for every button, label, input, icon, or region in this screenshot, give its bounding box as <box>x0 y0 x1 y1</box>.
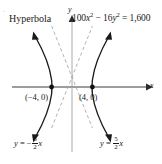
right-vertex-dot <box>90 85 95 90</box>
right-asymptote-numerator: 5 <box>113 136 119 143</box>
left-vertex-dot <box>49 85 54 90</box>
right-asymptote-fraction: 52 <box>113 136 119 151</box>
equation-operator: − <box>96 13 101 23</box>
hyperbola-right-upper-arrowhead <box>105 32 112 40</box>
right-asymptote-denominator: 2 <box>113 143 119 151</box>
right-asymptote-equals: = <box>106 139 111 148</box>
x-axis-label: x <box>150 82 154 90</box>
left-asymptote-y-var: y <box>14 139 18 148</box>
right-asymptote-label: y = 52x <box>100 136 123 151</box>
equation-constant: 1,600 <box>129 13 150 23</box>
right-asymptote-y-var: y <box>100 139 104 148</box>
y-axis-label: y <box>68 6 72 14</box>
figure-title: Hyperbola <box>9 14 51 24</box>
hyperbola-left-upper-arrowhead <box>32 32 39 40</box>
left-asymptote-x-var: x <box>38 139 42 148</box>
equation-equals: = <box>122 13 127 23</box>
left-vertex-label: (−4, 0) <box>25 93 48 102</box>
equation-coefficient-x: 100 <box>72 13 86 23</box>
left-asymptote-fraction: 52 <box>32 136 38 151</box>
right-vertex-label: (4, 0) <box>79 93 97 102</box>
equation-label: 100x2 − 16y2 = 1,600 <box>72 14 150 24</box>
left-asymptote-denominator: 2 <box>32 143 38 151</box>
equation-x-power: 2 <box>90 11 93 18</box>
equation-coefficient-y: 16 <box>103 13 112 23</box>
right-asymptote-x-var: x <box>119 139 123 148</box>
left-asymptote-sign: − <box>27 139 32 148</box>
left-asymptote-numerator: 5 <box>32 136 38 143</box>
equation-y-power: 2 <box>117 11 120 18</box>
left-asymptote-label: y = −52x <box>14 136 42 151</box>
left-asymptote-equals: = <box>20 139 25 148</box>
